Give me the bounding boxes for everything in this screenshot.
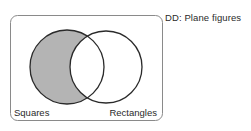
universe-label: DD: Plane figures <box>165 12 241 23</box>
rectangles-label: Rectangles <box>109 107 157 118</box>
squares-label: Squares <box>14 107 50 118</box>
